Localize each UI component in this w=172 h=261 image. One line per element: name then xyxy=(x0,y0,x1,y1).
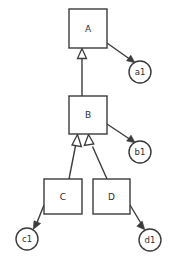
edge-d-to-b-arrowhead-hollow-triangle-icon xyxy=(84,135,93,146)
node-instance-c1[interactable]: c1 xyxy=(16,228,38,250)
node-class-d[interactable]: D xyxy=(93,179,130,214)
node-instance-d1[interactable]: d1 xyxy=(139,229,161,251)
edge-d-to-b-line xyxy=(93,147,108,180)
edge-d-to-d1-arrowhead-solid-icon xyxy=(137,221,145,230)
node-class-a-label: A xyxy=(85,24,92,34)
node-class-c[interactable]: C xyxy=(44,179,82,214)
edge-b-to-b1-line xyxy=(107,124,131,140)
edge-d-to-d1 xyxy=(130,205,145,230)
node-class-c-label: C xyxy=(60,192,66,202)
node-instance-a1-label: a1 xyxy=(135,67,146,77)
edge-a-to-a1 xyxy=(107,43,135,63)
edge-b-to-b1 xyxy=(107,124,135,143)
node-instance-c1-label: c1 xyxy=(22,234,32,244)
diagram-canvas: A B C D a1 b1 c1 xyxy=(0,0,172,261)
edge-c-to-c1 xyxy=(33,205,44,230)
edge-d-to-b xyxy=(84,135,107,180)
edge-b-to-b1-arrowhead-solid-icon xyxy=(127,135,136,143)
edge-c-to-b-arrowhead-hollow-triangle-icon xyxy=(72,135,81,147)
node-class-a[interactable]: A xyxy=(69,9,107,48)
node-class-b[interactable]: B xyxy=(69,96,107,134)
edge-c-to-b-line xyxy=(69,146,76,179)
edge-d-to-d1-line xyxy=(130,205,142,225)
node-instance-d1-label: d1 xyxy=(145,235,156,245)
edge-a-to-a1-line xyxy=(107,43,131,60)
edge-b-to-a-arrowhead-hollow-triangle-icon xyxy=(78,49,87,59)
node-instance-b1[interactable]: b1 xyxy=(129,141,151,163)
node-instance-a1[interactable]: a1 xyxy=(129,61,151,83)
node-class-b-label: B xyxy=(85,110,91,120)
edge-b-to-a xyxy=(78,49,87,97)
edge-a-to-a1-arrowhead-solid-icon xyxy=(127,55,136,63)
edge-c-to-c1-arrowhead-solid-icon xyxy=(33,221,40,230)
node-class-d-label: D xyxy=(108,192,115,202)
diagram-svg: A B C D a1 b1 c1 xyxy=(0,0,172,261)
edge-c-to-b xyxy=(69,135,81,180)
node-instance-b1-label: b1 xyxy=(135,147,146,157)
